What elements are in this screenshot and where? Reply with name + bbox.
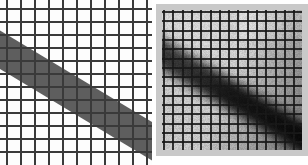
synthetic-canvas <box>0 0 152 165</box>
measured-image-area <box>162 10 302 150</box>
synthetic-gridline-vertical <box>34 0 36 165</box>
synthetic-gridline-horizontal <box>0 112 152 114</box>
synthetic-gridline-vertical <box>48 0 50 165</box>
synthetic-gridline-vertical <box>62 0 64 165</box>
synthetic-gridline-horizontal <box>0 8 152 10</box>
panel-measured-grid <box>156 4 308 156</box>
synthetic-gridline-horizontal <box>0 47 152 49</box>
synthetic-gridline-horizontal <box>0 73 152 75</box>
synthetic-gridline-horizontal <box>0 21 152 23</box>
synthetic-gridline-horizontal <box>0 60 152 62</box>
panel-synthetic-grid <box>0 0 152 165</box>
synthetic-gridline-horizontal <box>0 125 152 127</box>
synthetic-gridline-vertical <box>6 0 8 165</box>
synthetic-gridline-horizontal <box>0 34 152 36</box>
synthetic-gridline-vertical <box>132 0 134 165</box>
synthetic-gridline-vertical <box>76 0 78 165</box>
synthetic-gridline-horizontal <box>0 138 152 140</box>
measured-noise-layer <box>162 10 302 150</box>
synthetic-gridline-vertical <box>20 0 22 165</box>
synthetic-gridline-horizontal <box>0 86 152 88</box>
synthetic-gridline-vertical <box>146 0 148 165</box>
figure-root <box>0 0 308 165</box>
synthetic-gridline-vertical <box>90 0 92 165</box>
measured-optics-wrapper <box>162 10 302 150</box>
synthetic-gridline-horizontal <box>0 99 152 101</box>
synthetic-gridline-horizontal <box>0 151 152 153</box>
synthetic-gridline-vertical <box>118 0 120 165</box>
synthetic-gridline-vertical <box>104 0 106 165</box>
